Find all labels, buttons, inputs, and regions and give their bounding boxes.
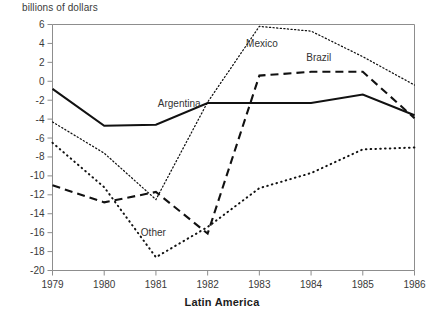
chart-title: Latin America: [0, 296, 444, 308]
x-tick-label: 1983: [248, 279, 271, 290]
y-tick-label: -12: [30, 189, 45, 200]
x-tick-label: 1986: [403, 279, 426, 290]
series-label-brazil: Brazil: [306, 52, 331, 63]
y-tick-label: 4: [39, 38, 45, 49]
series-label-other: Other: [141, 227, 167, 238]
axis-frame: [53, 25, 415, 271]
y-tick-label: -14: [30, 208, 45, 219]
latin-america-line-chart: billions of dollars 6420-2-4-6-8-10-12-1…: [0, 0, 444, 321]
series-line-brazil: [53, 72, 415, 234]
series-label-argentina: Argentina: [158, 98, 201, 109]
y-tick-label: -10: [30, 170, 45, 181]
y-tick-label: -20: [30, 265, 45, 276]
y-axis-ticks: 6420-2-4-6-8-10-12-14-16-18-20: [30, 19, 52, 276]
series-label-mexico: Mexico: [246, 38, 278, 49]
x-tick-label: 1985: [352, 279, 375, 290]
x-tick-label: 1979: [41, 279, 64, 290]
y-tick-label: -4: [36, 114, 45, 125]
x-tick-label: 1981: [145, 279, 168, 290]
data-series-group: [53, 26, 415, 257]
x-tick-label: 1980: [93, 279, 116, 290]
series-line-other: [53, 143, 415, 257]
y-tick-label: -2: [36, 95, 45, 106]
x-tick-label: 1982: [197, 279, 220, 290]
y-tick-label: -8: [36, 151, 45, 162]
y-tick-label: -18: [30, 246, 45, 257]
y-tick-label: -16: [30, 227, 45, 238]
x-axis-ticks: 19791980198119821983198419851986: [41, 271, 426, 290]
x-tick-label: 1984: [300, 279, 323, 290]
y-tick-label: 6: [39, 19, 45, 30]
y-tick-label: 0: [39, 76, 45, 87]
series-line-argentina: [53, 89, 415, 126]
series-label-group: ArgentinaMexicoBrazilOther: [141, 38, 332, 238]
plot-area: 6420-2-4-6-8-10-12-14-16-18-20 197919801…: [0, 0, 444, 321]
plot-frame: [53, 25, 415, 271]
y-tick-label: -6: [36, 133, 45, 144]
y-tick-label: 2: [39, 57, 45, 68]
series-line-mexico: [53, 26, 415, 199]
